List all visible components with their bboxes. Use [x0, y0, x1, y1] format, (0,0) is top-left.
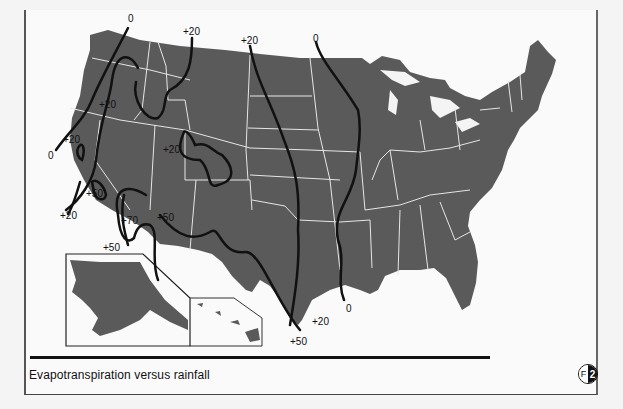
hawaii-islands — [197, 303, 260, 342]
label-n-plus20: +20 — [183, 26, 200, 37]
label-or-plus20: +20 — [99, 99, 116, 110]
figure-badge: F 2 — [578, 364, 598, 384]
label-plains-zero-top: 0 — [313, 33, 319, 44]
caption-divider — [30, 356, 490, 359]
label-sw-plus50: +50 — [157, 212, 174, 223]
label-ca-plus20-south: +20 — [60, 210, 77, 221]
label-ca-plus50: +50 — [86, 188, 103, 199]
label-tx-plus20: +20 — [312, 316, 329, 327]
us-map: 0 0 +20 +20 0 +20 +20 +20 +50 +20 +70 +5… — [0, 0, 623, 360]
badge-letter: F — [579, 365, 588, 383]
label-co-plus20: +20 — [163, 144, 180, 155]
label-sw-plus70: +70 — [121, 215, 138, 226]
page: 0 0 +20 +20 0 +20 +20 +20 +50 +20 +70 +5… — [0, 0, 623, 409]
label-sw-plus50-bottom: +50 — [103, 242, 120, 253]
label-tx-plus50: +50 — [290, 336, 307, 347]
alaska-landmass — [70, 260, 188, 336]
label-la-zero: 0 — [346, 303, 352, 314]
label-ca-plus20-coast: +20 — [63, 134, 80, 145]
label-nw-zero-top: 0 — [128, 13, 134, 24]
figure-caption: Evapotranspiration versus rainfall — [29, 368, 210, 382]
badge-number: 2 — [588, 365, 597, 383]
label-nw-zero-bottom: 0 — [48, 150, 54, 161]
label-plains-plus20-top: +20 — [241, 35, 258, 46]
